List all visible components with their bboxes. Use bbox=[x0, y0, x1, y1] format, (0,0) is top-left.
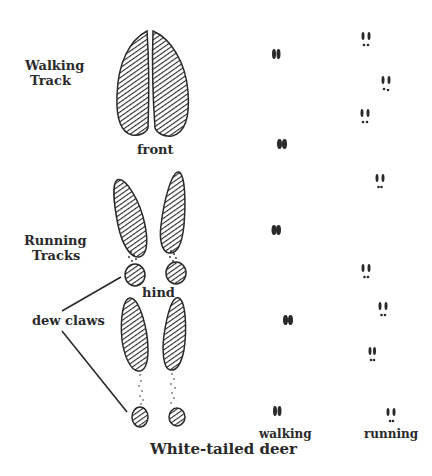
front-label: front bbox=[137, 142, 174, 157]
running-label: running bbox=[364, 427, 418, 442]
running-trail bbox=[361, 32, 396, 422]
front-hoof-print bbox=[117, 31, 189, 136]
dew-claws-pointer-lower bbox=[62, 331, 127, 412]
walking-track-label-line1: Walking bbox=[25, 58, 84, 73]
walking-track-label: Walking Track bbox=[25, 58, 84, 88]
dew-claws-label: dew claws bbox=[32, 313, 105, 328]
hind-hoof-print-upper bbox=[114, 172, 186, 286]
walking-trail bbox=[272, 49, 294, 416]
running-tracks-label: Running Tracks bbox=[24, 233, 87, 263]
hind-hoof-print-lower bbox=[121, 298, 185, 427]
walking-track-label-line2: Track bbox=[25, 73, 84, 88]
dew-claws-pointer-upper bbox=[62, 277, 121, 311]
running-tracks-label-line2: Tracks bbox=[24, 248, 87, 263]
hind-label: hind bbox=[142, 285, 175, 300]
running-tracks-label-line1: Running bbox=[24, 233, 87, 248]
figure-title: White-tailed deer bbox=[150, 442, 297, 457]
